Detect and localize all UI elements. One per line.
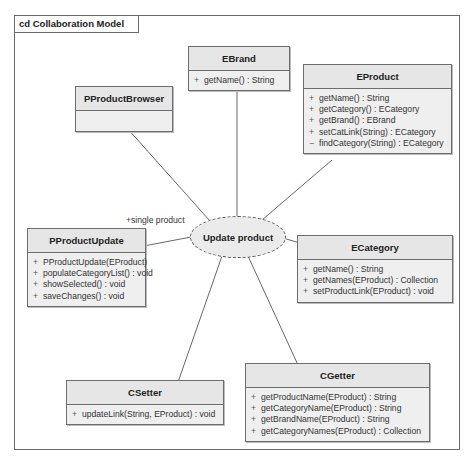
- operation: +saveChanges() : void: [33, 291, 140, 302]
- operation: +getName() : String: [303, 264, 447, 275]
- class-cgetter[interactable]: CGetter +getProductName(EProduct) : Stri…: [245, 363, 430, 442]
- role-label: +single product: [126, 215, 185, 225]
- operation: +getNames(EProduct) : Collection: [303, 275, 447, 286]
- operation: +populateCategoryList() : void: [33, 268, 140, 279]
- class-name: CSetter: [67, 381, 223, 405]
- class-pproductbrowser[interactable]: PProductBrowser: [75, 86, 173, 132]
- class-name: EBrand: [189, 47, 289, 71]
- empty-operations: [76, 111, 172, 131]
- operation: +PProductUpdate(EProduct): [33, 257, 140, 268]
- class-ecategory[interactable]: ECategory +getName() : String +getNames(…: [297, 235, 453, 303]
- class-name: CGetter: [246, 364, 429, 388]
- link-csetter: [177, 256, 222, 385]
- class-name: ECategory: [298, 236, 452, 260]
- class-pproductupdate[interactable]: PProductUpdate +PProductUpdate(EProduct)…: [27, 228, 146, 307]
- use-case-update-product[interactable]: Update product: [190, 216, 286, 258]
- operation: −findCategory(String) : ECategory: [309, 138, 446, 149]
- operation: +updateLink(String, EProduct) : void: [72, 409, 218, 420]
- operation: +getCategoryNames(EProduct) : Collection: [251, 426, 424, 437]
- class-name: EProduct: [304, 65, 451, 89]
- operation: +getProductName(EProduct) : String: [251, 392, 424, 403]
- operation: +getCategoryName(EProduct) : String: [251, 403, 424, 414]
- class-csetter[interactable]: CSetter +updateLink(String, EProduct) : …: [66, 380, 224, 425]
- link-pproductupdate: [144, 237, 191, 246]
- operation: +setCatLink(String) : ECategory: [309, 127, 446, 138]
- class-name: PProductUpdate: [28, 229, 145, 253]
- operation: +getBrandName(EProduct) : String: [251, 414, 424, 425]
- operation: +getName() : String: [309, 93, 446, 104]
- use-case-label: Update product: [203, 232, 273, 243]
- class-ebrand[interactable]: EBrand +getName() : String: [188, 46, 290, 91]
- operation: +getName() : String: [194, 75, 284, 86]
- operation: +setProductLink(EProduct) : void: [303, 286, 447, 297]
- operation: +getCategory() : ECategory: [309, 104, 446, 115]
- link-pproductbrowser: [127, 128, 210, 221]
- operation: +getBrand() : EBrand: [309, 115, 446, 126]
- class-name: PProductBrowser: [76, 87, 172, 111]
- link-cgetter: [248, 256, 298, 365]
- link-eproduct: [262, 160, 332, 220]
- class-eproduct[interactable]: EProduct +getName() : String +getCategor…: [303, 64, 452, 154]
- operation: +showSelected() : void: [33, 279, 140, 290]
